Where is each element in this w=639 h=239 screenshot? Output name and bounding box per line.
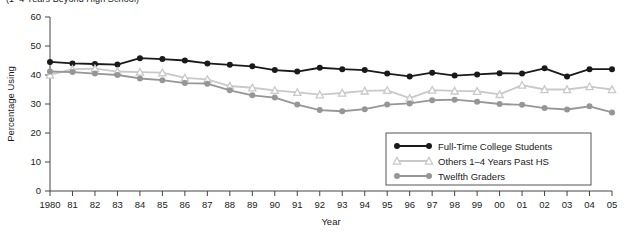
data-point <box>294 102 300 108</box>
data-point <box>384 102 390 108</box>
data-point <box>136 69 143 76</box>
data-point <box>249 92 255 98</box>
data-point <box>384 87 391 94</box>
data-point <box>159 69 166 76</box>
x-tick-label: 03 <box>562 199 573 210</box>
data-point <box>474 88 481 95</box>
data-point <box>159 56 165 62</box>
x-tick-label: 90 <box>270 199 281 210</box>
data-point <box>249 84 256 91</box>
data-point <box>137 55 143 61</box>
data-point <box>227 62 233 68</box>
line-chart: 0102030405060Percentage Using19808182838… <box>0 0 639 239</box>
data-point <box>407 100 413 106</box>
y-axis-label: Percentage Using <box>5 66 16 142</box>
data-point <box>406 95 413 102</box>
data-point <box>114 72 120 78</box>
data-point <box>362 67 368 73</box>
x-tick-label: 84 <box>135 199 146 210</box>
data-point <box>271 87 278 94</box>
data-point <box>294 69 300 75</box>
data-point <box>587 103 593 109</box>
data-point <box>182 80 188 86</box>
y-tick-label: 60 <box>30 11 41 22</box>
data-point <box>497 70 503 76</box>
x-tick-label: 05 <box>607 199 618 210</box>
x-tick-label: 01 <box>517 199 528 210</box>
y-tick-label: 10 <box>30 156 41 167</box>
y-tick-label: 40 <box>30 69 41 80</box>
data-point <box>474 71 480 77</box>
x-tick-label: 82 <box>90 199 101 210</box>
data-point <box>541 86 548 93</box>
data-point <box>47 69 53 75</box>
data-point <box>452 73 458 79</box>
x-tick-label: 91 <box>292 199 303 210</box>
data-point <box>429 70 435 76</box>
data-point <box>204 60 210 66</box>
data-point <box>294 89 301 96</box>
data-point <box>542 105 548 111</box>
data-point <box>317 107 323 113</box>
data-point <box>474 99 480 105</box>
x-axis-label: Year <box>321 216 340 227</box>
data-point <box>519 102 525 108</box>
data-point <box>204 81 210 87</box>
data-point <box>564 107 570 113</box>
data-point <box>542 65 548 71</box>
y-tick-label: 0 <box>36 185 41 196</box>
data-point <box>159 77 165 83</box>
data-point <box>496 91 503 98</box>
x-tick-label: 93 <box>337 199 348 210</box>
data-point <box>362 106 368 112</box>
x-tick-label: 96 <box>404 199 415 210</box>
y-tick-label: 20 <box>30 127 41 138</box>
data-point <box>587 66 593 72</box>
legend-marker <box>394 173 400 179</box>
x-tick-label: 99 <box>472 199 483 210</box>
data-point <box>451 87 458 94</box>
data-point <box>429 97 435 103</box>
x-tick-label: 81 <box>67 199 78 210</box>
legend-marker <box>394 143 400 149</box>
data-point <box>609 66 615 72</box>
x-tick-label: 83 <box>112 199 123 210</box>
x-tick-label: 98 <box>449 199 460 210</box>
y-tick-label: 30 <box>30 98 41 109</box>
data-point <box>586 83 593 90</box>
data-point <box>249 63 255 69</box>
x-tick-label: 92 <box>314 199 325 210</box>
legend-label: Full-Time College Students <box>438 141 552 152</box>
x-tick-label: 00 <box>494 199 505 210</box>
x-tick-label: 02 <box>539 199 550 210</box>
data-point <box>92 71 98 77</box>
x-tick-label: 87 <box>202 199 213 210</box>
data-point <box>317 65 323 71</box>
x-tick-label: 89 <box>247 199 258 210</box>
data-point <box>181 74 188 81</box>
data-point <box>47 59 53 65</box>
data-point <box>316 91 323 98</box>
data-point <box>497 101 503 107</box>
data-point <box>272 95 278 101</box>
data-point <box>272 67 278 73</box>
x-tick-label: 94 <box>359 199 370 210</box>
series-line <box>50 72 612 113</box>
x-tick-label: 86 <box>180 199 191 210</box>
chart-container: (1–4 Years Beyond High School) 010203040… <box>0 0 639 239</box>
data-point <box>563 86 570 93</box>
data-point <box>518 82 525 89</box>
data-point <box>339 108 345 114</box>
x-tick-label: 88 <box>225 199 236 210</box>
data-point <box>609 109 615 115</box>
data-point <box>407 73 413 79</box>
x-tick-label: 95 <box>382 199 393 210</box>
data-point <box>564 73 570 79</box>
data-point <box>182 58 188 64</box>
legend-marker <box>426 143 432 149</box>
x-tick-label: 85 <box>157 199 168 210</box>
data-point <box>69 69 75 75</box>
data-point <box>429 86 436 93</box>
data-point <box>608 86 615 93</box>
data-point <box>137 75 143 81</box>
